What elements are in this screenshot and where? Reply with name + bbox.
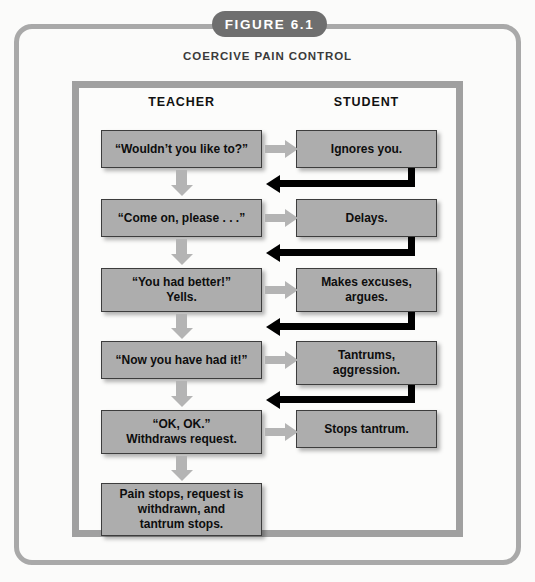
figure-number-pill: FIGURE 6.1 xyxy=(212,11,327,37)
forward-arrow-2 xyxy=(265,214,285,222)
forward-arrow-5 xyxy=(265,428,285,436)
outcome-node: Pain stops, request is withdrawn, and ta… xyxy=(101,483,262,536)
teacher-node-2: “Come on, please . . .” xyxy=(101,199,262,237)
teacher-node-3: “You had better!” Yells. xyxy=(101,268,262,312)
forward-arrow-3 xyxy=(265,286,285,294)
student-node-5: Stops tantrum. xyxy=(296,410,437,448)
return-arrow-1-horizontal xyxy=(279,180,408,187)
teacher-down-arrow-2 xyxy=(176,239,187,255)
forward-arrow-4 xyxy=(265,356,285,364)
student-node-1: Ignores you. xyxy=(296,130,437,168)
return-arrow-4-horizontal xyxy=(279,396,408,403)
return-arrow-2-vertical xyxy=(408,237,415,256)
return-arrow-3-horizontal xyxy=(279,323,408,330)
figure-page: FIGURE 6.1 COERCIVE PAIN CONTROL TEACHER… xyxy=(0,0,535,582)
teacher-down-arrow-3 xyxy=(176,314,187,329)
return-arrow-4-vertical xyxy=(408,385,415,403)
return-arrow-2-horizontal xyxy=(279,249,408,256)
return-arrow-4-head xyxy=(266,391,280,409)
teacher-node-1: “Wouldn’t you like to?” xyxy=(101,130,262,168)
return-arrow-3-head xyxy=(266,318,280,336)
column-header-teacher: TEACHER xyxy=(101,95,262,109)
return-arrow-3-vertical xyxy=(408,312,415,330)
diagram-stage: TEACHER STUDENT “Wouldn’t you like to?” … xyxy=(0,0,535,582)
teacher-node-4: “Now you have had it!” xyxy=(101,341,262,379)
column-header-student: STUDENT xyxy=(296,95,437,109)
student-node-4: Tantrums, aggression. xyxy=(296,341,437,385)
student-node-2: Delays. xyxy=(296,199,437,237)
return-arrow-1-head xyxy=(266,175,280,193)
teacher-node-5: “OK, OK.” Withdraws request. xyxy=(101,410,262,454)
teacher-down-arrow-4 xyxy=(176,381,187,397)
teacher-down-arrow-1 xyxy=(176,170,187,186)
forward-arrow-1 xyxy=(265,145,285,153)
teacher-down-arrow-5 xyxy=(176,456,187,471)
return-arrow-2-head xyxy=(266,244,280,262)
return-arrow-1-vertical xyxy=(408,168,415,187)
student-node-3: Makes excuses, argues. xyxy=(296,268,437,312)
